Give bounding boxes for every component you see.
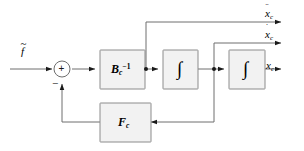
input-label-force: ~ f [21,46,24,57]
block-label-integrator-2: ∫ [243,59,248,78]
fc-base-symbol: F [118,115,126,129]
tap-point-acceleration [144,67,148,71]
tap-point-velocity [212,67,216,71]
velocity-single-dot-accent: ˙ [265,23,269,32]
bc-superscript: −1 [122,62,130,71]
output-label-acceleration: ¨ x c [265,8,273,21]
block-label-bc-inverse: Bc−1 [111,63,130,77]
block-label-integrator-1: ∫ [177,59,182,78]
block-diagram: ~ f + − Bc−1 ∫ ∫ Fc ¨ x c ˙ x c xc [0,0,304,151]
block-label-fc-feedback: Fc [118,116,129,130]
acceleration-double-dot-accent: ¨ [265,2,269,11]
diagram-canvas [0,0,304,151]
output-label-velocity: ˙ x c [265,29,273,42]
input-tilde-accent: ~ [20,38,26,49]
sum-junction-plus-sign: + [59,64,65,74]
output-label-position: xc [266,60,274,73]
position-subscript: c [271,65,274,73]
velocity-subscript: c [270,34,273,42]
acceleration-subscript: c [270,13,273,21]
fc-subscript: c [126,121,129,130]
bc-base-symbol: B [111,62,119,76]
sum-junction-minus-sign: − [52,78,58,89]
